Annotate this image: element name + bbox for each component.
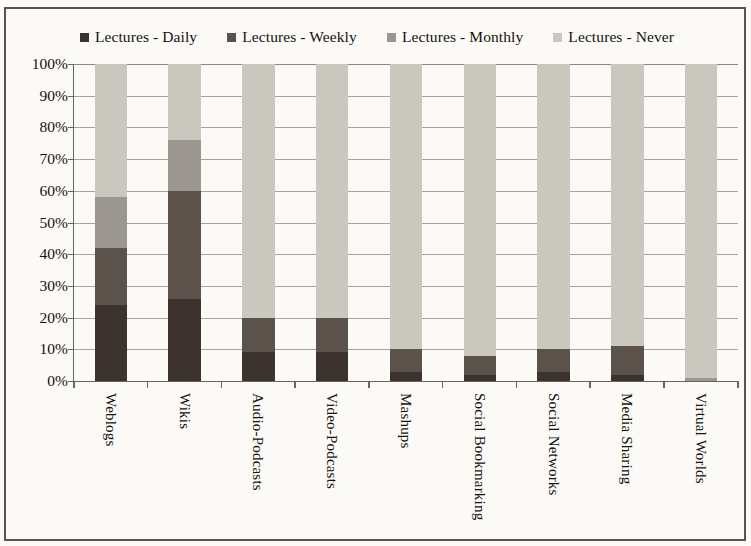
stacked-bar[interactable]	[537, 64, 569, 381]
y-tick-label: 0%	[47, 372, 68, 390]
y-tick-label: 80%	[40, 118, 68, 136]
x-axis-tick-mark	[73, 381, 75, 388]
x-label-slot: Social Bookmarking	[442, 389, 516, 539]
stacked-bar[interactable]	[611, 64, 643, 381]
y-tick-label: 90%	[40, 87, 68, 105]
bar-group	[74, 64, 738, 381]
bar-slot	[74, 64, 148, 381]
bar-segment[interactable]	[168, 191, 200, 299]
bar-segment[interactable]	[316, 352, 348, 381]
x-axis-label: Video-Podcasts	[323, 393, 340, 489]
bar-segment[interactable]	[537, 64, 569, 349]
y-axis-tick-mark	[68, 64, 74, 65]
x-label-slot: Virtual Worlds	[663, 389, 737, 539]
x-axis-tick-mark	[589, 381, 591, 388]
y-tick-label: 40%	[40, 245, 68, 263]
bar-segment[interactable]	[95, 305, 127, 381]
x-axis-tick-mark	[663, 381, 665, 388]
x-axis-ticks	[73, 381, 737, 388]
bar-segment[interactable]	[242, 64, 274, 318]
x-axis-tick-mark	[368, 381, 370, 388]
x-axis-label: Social Networks	[544, 393, 561, 496]
bar-segment[interactable]	[390, 372, 422, 382]
y-tick-label: 30%	[40, 277, 68, 295]
bar-segment[interactable]	[168, 140, 200, 191]
plot-area	[73, 64, 738, 382]
bar-slot	[295, 64, 369, 381]
x-axis-tick-mark	[737, 381, 739, 388]
bar-slot	[148, 64, 222, 381]
x-label-slot: Media Sharing	[589, 389, 663, 539]
bar-slot	[517, 64, 591, 381]
x-label-slot: Wikis	[147, 389, 221, 539]
y-axis-tick-mark	[68, 286, 74, 287]
bar-segment[interactable]	[611, 64, 643, 346]
bar-slot	[590, 64, 664, 381]
bar-segment[interactable]	[95, 248, 127, 305]
bar-segment[interactable]	[611, 346, 643, 375]
y-axis-tick-mark	[68, 159, 74, 160]
y-tick-label: 70%	[40, 150, 68, 168]
bar-slot	[443, 64, 517, 381]
x-axis-label: Audio-Podcasts	[249, 393, 266, 491]
stacked-bar[interactable]	[168, 64, 200, 381]
y-tick-label: 50%	[40, 214, 68, 232]
x-axis-label: Social Bookmarking	[471, 393, 488, 520]
bar-segment[interactable]	[537, 349, 569, 371]
x-label-slot: Weblogs	[73, 389, 147, 539]
y-axis-tick-mark	[68, 318, 74, 319]
chart-page: Lectures - DailyLectures - WeeklyLecture…	[0, 0, 751, 546]
bar-segment[interactable]	[168, 299, 200, 381]
x-label-slot: Video-Podcasts	[294, 389, 368, 539]
y-axis-tick-mark	[68, 254, 74, 255]
y-tick-label: 10%	[40, 340, 68, 358]
bar-segment[interactable]	[168, 64, 200, 140]
bar-slot	[222, 64, 296, 381]
x-axis-label: Wikis	[176, 393, 193, 429]
x-axis-label: Weblogs	[102, 393, 119, 447]
bar-segment[interactable]	[537, 372, 569, 382]
bar-segment[interactable]	[464, 356, 496, 375]
y-tick-label: 100%	[32, 55, 68, 73]
y-axis-tick-mark	[68, 191, 74, 192]
y-axis-tick-labels: 100%90%80%70%60%50%40%30%20%10%0%	[12, 57, 68, 381]
x-axis-category-labels: WeblogsWikisAudio-PodcastsVideo-Podcasts…	[73, 389, 737, 539]
stacked-bar[interactable]	[390, 64, 422, 381]
plot-wrapper: 100%90%80%70%60%50%40%30%20%10%0% Weblog…	[6, 9, 748, 543]
stacked-bar[interactable]	[242, 64, 274, 381]
bar-segment[interactable]	[464, 64, 496, 356]
stacked-bar[interactable]	[95, 64, 127, 381]
x-axis-label: Media Sharing	[618, 393, 635, 484]
bar-slot	[369, 64, 443, 381]
bar-segment[interactable]	[316, 64, 348, 318]
x-label-slot: Mashups	[368, 389, 442, 539]
bar-segment[interactable]	[390, 64, 422, 349]
bar-segment[interactable]	[685, 64, 717, 378]
x-axis-label: Virtual Worlds	[692, 393, 709, 484]
y-tick-label: 20%	[40, 309, 68, 327]
bar-slot	[664, 64, 738, 381]
x-label-slot: Social Networks	[516, 389, 590, 539]
stacked-bar[interactable]	[685, 64, 717, 381]
bar-segment[interactable]	[316, 318, 348, 353]
x-axis-label: Mashups	[397, 393, 414, 449]
y-tick-label: 60%	[40, 182, 68, 200]
bar-segment[interactable]	[95, 64, 127, 197]
bar-segment[interactable]	[95, 197, 127, 248]
x-axis-tick-mark	[516, 381, 518, 388]
bar-segment[interactable]	[390, 349, 422, 371]
y-axis-tick-mark	[68, 223, 74, 224]
stacked-bar[interactable]	[464, 64, 496, 381]
stacked-bar[interactable]	[316, 64, 348, 381]
bar-segment[interactable]	[242, 352, 274, 381]
chart-frame: Lectures - DailyLectures - WeeklyLecture…	[4, 7, 746, 541]
x-axis-tick-mark	[294, 381, 296, 388]
x-axis-tick-mark	[442, 381, 444, 388]
x-label-slot: Audio-Podcasts	[221, 389, 295, 539]
x-axis-tick-mark	[147, 381, 149, 388]
y-axis-tick-mark	[68, 349, 74, 350]
y-axis-tick-mark	[68, 127, 74, 128]
x-axis-tick-mark	[221, 381, 223, 388]
bar-segment[interactable]	[242, 318, 274, 353]
y-axis-tick-mark	[68, 96, 74, 97]
